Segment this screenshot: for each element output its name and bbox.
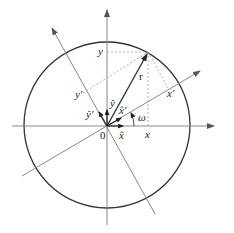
rotation-diagram: y x y' x' r ω 0 x̂ ŷ x̂' ŷ': [0, 0, 234, 233]
omega-label: ω: [138, 111, 146, 123]
x-hat-label: x̂: [118, 129, 124, 141]
y-hat-label: ŷ: [109, 97, 115, 109]
dashed-x-prime-projection: [148, 52, 168, 88]
y-hat-prime-label: ŷ': [85, 108, 94, 120]
x-prime-label: x': [166, 87, 175, 99]
origin-label: 0: [100, 129, 106, 141]
x-hat-prime-label: x̂': [118, 104, 127, 116]
x-label: x: [144, 128, 150, 140]
y-label: y: [97, 45, 103, 57]
omega-angle-arc: [131, 113, 134, 126]
y-prime-label: y': [74, 88, 83, 100]
r-label: r: [139, 70, 143, 82]
y-hat-prime-vector: [99, 112, 107, 126]
